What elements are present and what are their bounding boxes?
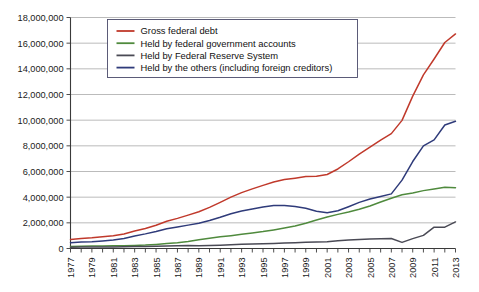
legend-label-3: Held by the others (including foreign cr… (141, 62, 333, 73)
y-axis-labels-group: 02,000,0004,000,0006,000,0008,000,00010,… (18, 13, 64, 254)
x-tick-label: 1987 (173, 258, 183, 278)
series-line-3 (71, 121, 456, 242)
x-tick-label: 1985 (152, 258, 162, 278)
y-axis-ticks-group (67, 18, 71, 249)
x-tick-label: 2005 (366, 258, 376, 278)
x-tick-label: 1989 (194, 258, 204, 278)
x-tick-label: 1995 (259, 258, 269, 278)
y-tick-label: 8,000,000 (23, 141, 64, 151)
series-line-2 (71, 222, 456, 247)
y-tick-label: 16,000,000 (18, 39, 64, 49)
chart-canvas: 02,000,0004,000,0006,000,0008,000,00010,… (0, 0, 479, 292)
y-tick-label: 12,000,000 (18, 90, 64, 100)
x-tick-label: 1999 (301, 258, 311, 278)
x-axis-ticks-group (71, 249, 456, 253)
y-tick-label: 0 (58, 244, 63, 254)
x-tick-label: 2013 (451, 258, 461, 278)
x-tick-label: 2001 (323, 258, 333, 278)
y-tick-label: 18,000,000 (18, 13, 64, 23)
x-tick-label: 1981 (109, 258, 119, 278)
y-tick-label: 4,000,000 (23, 193, 64, 203)
x-tick-label: 2007 (387, 258, 397, 278)
x-tick-label: 2003 (344, 258, 354, 278)
legend-label-0: Gross federal debt (141, 25, 219, 36)
x-tick-label: 1997 (280, 258, 290, 278)
x-tick-label: 1979 (87, 258, 97, 278)
y-tick-label: 6,000,000 (23, 167, 64, 177)
legend-label-2: Held by Federal Reserve System (141, 50, 279, 61)
legend: Gross federal debtHeld by federal govern… (108, 20, 358, 78)
y-tick-label: 14,000,000 (18, 64, 64, 74)
legend-label-1: Held by federal government accounts (141, 38, 297, 49)
x-tick-label: 1991 (216, 258, 226, 278)
y-tick-label: 2,000,000 (23, 218, 64, 228)
y-tick-label: 10,000,000 (18, 116, 64, 126)
x-tick-label: 1977 (66, 258, 76, 278)
x-tick-label: 1983 (130, 258, 140, 278)
x-axis-labels-group: 1977197919811983198519871989199119931995… (66, 258, 461, 278)
x-tick-label: 2009 (408, 258, 418, 278)
debt-line-chart: 02,000,0004,000,0006,000,0008,000,00010,… (0, 0, 479, 292)
x-tick-label: 2011 (430, 258, 440, 278)
x-tick-label: 1993 (237, 258, 247, 278)
